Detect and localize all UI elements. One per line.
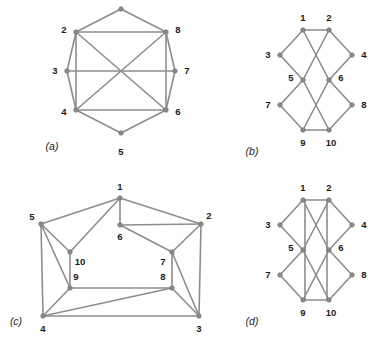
edge-2-3 xyxy=(199,224,201,316)
node-5 xyxy=(301,248,306,253)
node-3 xyxy=(65,69,70,74)
node-label-7: 7 xyxy=(265,269,270,280)
edge-8-10 xyxy=(329,275,352,300)
node-4 xyxy=(41,314,46,319)
node-6 xyxy=(118,223,123,228)
node-label-5: 5 xyxy=(29,211,35,222)
node-label-8: 8 xyxy=(361,99,366,110)
node-5 xyxy=(39,222,44,227)
panel-label-d: (d) xyxy=(246,315,259,327)
edge-2-3 xyxy=(67,32,76,71)
node-2 xyxy=(199,222,204,227)
node-9 xyxy=(68,286,73,291)
node-2 xyxy=(327,28,332,33)
panel-a-edges xyxy=(67,9,175,133)
panel-a: 2345678(a) xyxy=(46,7,190,157)
edge-5-10 xyxy=(41,224,70,252)
node-label-5: 5 xyxy=(288,242,294,253)
node-4 xyxy=(350,223,355,228)
panel-label-b: (b) xyxy=(246,145,259,157)
edge-8-1 xyxy=(121,9,166,32)
edge-6-8 xyxy=(329,80,352,105)
node-label-2: 2 xyxy=(61,24,66,35)
edge-1-3 xyxy=(280,30,303,55)
edge-8-4 xyxy=(43,288,172,316)
node-1 xyxy=(118,196,123,201)
edge-7-8 xyxy=(166,32,175,71)
edge-1-3 xyxy=(280,200,303,225)
edge-6-7 xyxy=(120,225,172,252)
node-9 xyxy=(301,128,306,133)
edge-2-4 xyxy=(329,30,352,55)
node-7 xyxy=(170,250,175,255)
edge-2-7 xyxy=(172,224,201,252)
node-label-6: 6 xyxy=(338,242,343,253)
node-7 xyxy=(173,69,178,74)
panel-d-nodes: 12345678910 xyxy=(265,182,367,318)
node-label-4: 4 xyxy=(361,49,367,60)
node-label-5: 5 xyxy=(118,146,124,157)
node-1 xyxy=(119,7,124,12)
node-6 xyxy=(164,108,169,113)
panel-c-edges xyxy=(41,198,201,316)
node-3 xyxy=(197,314,202,319)
node-4 xyxy=(350,53,355,58)
node-3 xyxy=(278,223,283,228)
node-label-3: 3 xyxy=(265,219,270,230)
node-5 xyxy=(301,78,306,83)
edge-5-7 xyxy=(280,80,303,105)
node-label-7: 7 xyxy=(265,99,270,110)
node-2 xyxy=(327,198,332,203)
node-8 xyxy=(350,273,355,278)
node-label-8: 8 xyxy=(175,24,180,35)
edge-2-6 xyxy=(120,224,201,225)
edge-8-10 xyxy=(329,105,352,130)
node-label-1: 1 xyxy=(117,181,123,192)
node-label-8: 8 xyxy=(160,271,165,282)
node-label-8: 8 xyxy=(361,269,366,280)
panel-b-nodes: 12345678910 xyxy=(265,12,367,148)
panel-a-nodes: 2345678 xyxy=(52,7,189,157)
edge-1-2 xyxy=(76,9,121,32)
node-label-9: 9 xyxy=(300,307,305,318)
node-label-4: 4 xyxy=(61,106,67,117)
edge-8-3 xyxy=(172,288,199,316)
node-label-6: 6 xyxy=(338,72,343,83)
edge-4-5 xyxy=(76,110,121,133)
panel-b: 12345678910(b) xyxy=(246,12,368,157)
edge-7-9 xyxy=(280,275,303,300)
panel-c: 12345678910(c) xyxy=(10,181,212,334)
node-label-9: 9 xyxy=(73,271,78,282)
node-8 xyxy=(170,286,175,291)
node-6 xyxy=(327,248,332,253)
node-10 xyxy=(68,250,73,255)
node-label-3: 3 xyxy=(52,65,57,76)
edge-1-2 xyxy=(120,198,201,224)
edge-7-9 xyxy=(280,105,303,130)
node-label-7: 7 xyxy=(184,65,189,76)
node-7 xyxy=(278,103,283,108)
edge-5-6 xyxy=(121,110,166,133)
node-label-4: 4 xyxy=(40,323,46,334)
node-label-2: 2 xyxy=(326,12,331,23)
node-label-2: 2 xyxy=(326,182,331,193)
node-label-6: 6 xyxy=(117,231,122,242)
node-label-3: 3 xyxy=(265,49,270,60)
node-10 xyxy=(327,298,332,303)
node-label-10: 10 xyxy=(75,256,86,267)
node-4 xyxy=(74,108,79,113)
graph-figure: 2345678(a)12345678910(b)12345678910(c)12… xyxy=(0,0,374,342)
edge-5-7 xyxy=(280,250,303,275)
node-label-6: 6 xyxy=(175,106,180,117)
node-1 xyxy=(301,198,306,203)
node-label-7: 7 xyxy=(160,256,165,267)
edge-6-8 xyxy=(329,250,352,275)
panel-d: 12345678910(d) xyxy=(246,182,368,327)
edge-6-7 xyxy=(166,71,175,110)
node-label-10: 10 xyxy=(326,307,337,318)
node-5 xyxy=(119,131,124,136)
panel-label-a: (a) xyxy=(46,140,59,152)
panel-label-c: (c) xyxy=(10,315,22,327)
edge-5-9 xyxy=(41,224,70,288)
node-8 xyxy=(164,30,169,35)
